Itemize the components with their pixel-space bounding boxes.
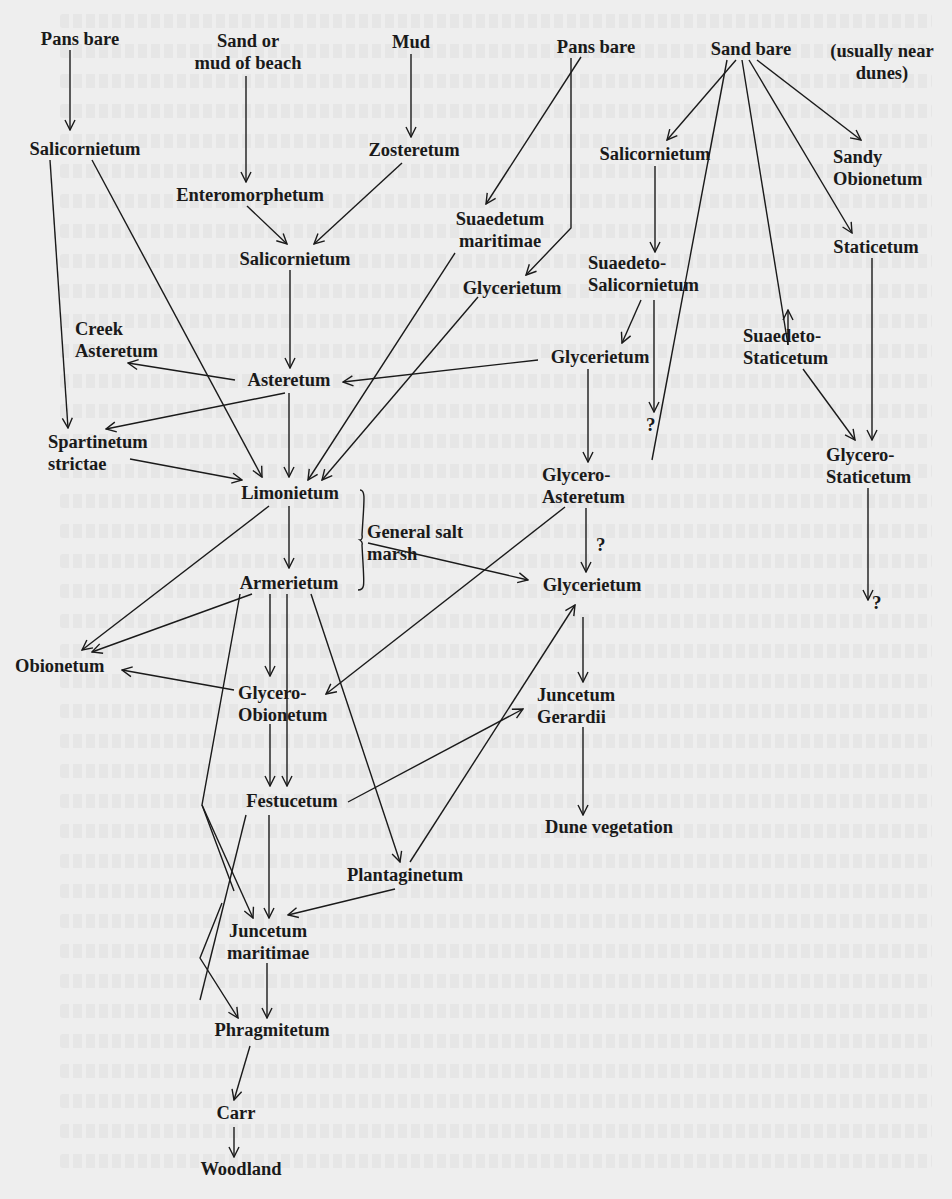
node-usually-near-dunes: (usually near dunes) bbox=[830, 40, 933, 84]
node-salicornietum-1: Salicornietum bbox=[30, 138, 141, 160]
node-salicornietum-3: Salicornietum bbox=[600, 143, 711, 165]
node-festucetum: Festucetum bbox=[246, 790, 337, 812]
node-zosteretum: Zosteretum bbox=[368, 139, 459, 161]
node-juncetum-gerardii: Juncetum Gerardii bbox=[537, 684, 615, 728]
node-glycero-staticetum: Glycero- Staticetum bbox=[826, 444, 911, 488]
node-armerietum: Armerietum bbox=[240, 572, 339, 594]
node-sandy-obionetum: Sandy Obionetum bbox=[833, 146, 922, 190]
node-carr: Carr bbox=[216, 1102, 255, 1124]
succession-arrows bbox=[0, 0, 952, 1199]
node-suaedetum-maritimae: Suaedetum maritimae bbox=[456, 208, 544, 252]
node-limonietum: Limonietum bbox=[241, 482, 339, 504]
node-glycero-obionetum: Glycero- Obionetum bbox=[238, 682, 327, 726]
node-plantaginetum: Plantaginetum bbox=[347, 864, 463, 886]
node-general-salt-marsh: General salt marsh bbox=[367, 521, 463, 565]
node-woodland: Woodland bbox=[200, 1158, 281, 1180]
unknown-mark-1: ? bbox=[646, 414, 656, 436]
node-creek-asteretum: Creek Asteretum bbox=[75, 318, 158, 362]
node-obionetum: Obionetum bbox=[15, 655, 104, 677]
node-glycerietum-2: Glycerietum bbox=[551, 346, 650, 368]
node-glycero-asteretum: Glycero- Asteretum bbox=[542, 464, 625, 508]
node-suaedeto-staticetum: Suaedeto- Staticetum bbox=[743, 325, 828, 369]
node-spartinetum-strictae: Spartinetum strictae bbox=[48, 431, 148, 475]
scanned-page: Pans bare Sand or mud of beach Mud Pans … bbox=[0, 0, 952, 1199]
node-juncetum-maritimae: Juncetum maritimae bbox=[227, 920, 309, 964]
node-mud: Mud bbox=[392, 31, 430, 53]
node-staticetum: Staticetum bbox=[833, 236, 918, 258]
node-sand-or-mud-of-beach: Sand or mud of beach bbox=[195, 30, 302, 74]
node-dune-vegetation: Dune vegetation bbox=[545, 816, 673, 838]
node-salicornietum-2: Salicornietum bbox=[240, 248, 351, 270]
node-glycerietum-3: Glycerietum bbox=[543, 574, 642, 596]
unknown-mark-3: ? bbox=[872, 592, 882, 614]
node-pans-bare-1: Pans bare bbox=[41, 28, 119, 50]
node-glycerietum-1: Glycerietum bbox=[463, 277, 562, 299]
node-pans-bare-2: Pans bare bbox=[557, 36, 635, 58]
node-enteromorphetum: Enteromorphetum bbox=[176, 184, 324, 206]
node-sand-bare: Sand bare bbox=[711, 38, 791, 60]
node-phragmitetum: Phragmitetum bbox=[214, 1019, 329, 1041]
unknown-mark-2: ? bbox=[596, 534, 606, 556]
node-asteretum: Asteretum bbox=[248, 369, 331, 391]
node-suaedeto-salicornietum: Suaedeto- Salicornietum bbox=[588, 252, 699, 296]
